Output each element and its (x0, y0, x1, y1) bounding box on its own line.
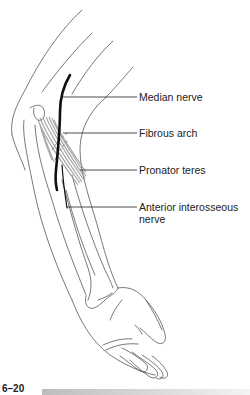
label-anterior-interosseous-line1: Anterior interosseous (139, 201, 238, 213)
thumb-outline (140, 300, 165, 344)
humerus-epicondyle (30, 105, 45, 120)
pronator-teres-muscle (38, 117, 86, 185)
forearm-radial-contour-top (97, 67, 133, 106)
caption-bar (42, 389, 250, 395)
thenar-crease (110, 300, 122, 320)
hand-detail (135, 325, 142, 334)
upper-arm-outline-outer (12, 10, 82, 135)
label-pronator-teres: Pronator teres (139, 164, 206, 176)
hand-palm-top (118, 288, 162, 331)
figure-number: 6–20 (2, 383, 24, 394)
hand-outline-left (72, 300, 155, 375)
forearm-anatomy-illustration (0, 0, 250, 395)
anterior-interosseous-nerve-path (62, 165, 67, 208)
label-anterior-interosseous-line2: nerve (139, 213, 165, 225)
elbow-outline (12, 135, 25, 170)
label-fibrous-arch: Fibrous arch (139, 127, 197, 139)
label-median-nerve: Median nerve (139, 91, 203, 103)
palm-crease-2 (106, 344, 138, 350)
biceps-contour (72, 41, 113, 94)
radius-outline-left (62, 180, 91, 300)
